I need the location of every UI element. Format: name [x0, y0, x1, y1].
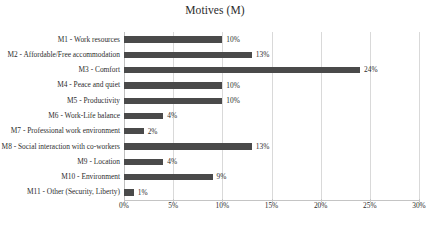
bar-series: 10%13%24%10%10%4%2%13%4%9%1% [124, 32, 419, 200]
bar [124, 143, 252, 149]
bar [124, 128, 144, 134]
bar [124, 36, 222, 42]
bar-row: 10% [124, 93, 419, 108]
bar-value-label: 13% [256, 51, 270, 58]
bar-value-label: 4% [167, 112, 177, 119]
bar-value-label: 10% [226, 82, 240, 89]
bar-value-label: 4% [167, 158, 177, 165]
bar-value-label: 13% [256, 143, 270, 150]
bar-value-label: 10% [226, 36, 240, 43]
bar-chart: Motives (M) M1 - Work resourcesM2 - Affo… [0, 0, 430, 227]
bar-value-label: 10% [226, 97, 240, 104]
bar [124, 67, 360, 73]
bar-row: 4% [124, 108, 419, 123]
bar-value-label: 2% [148, 128, 158, 135]
bar [124, 113, 163, 119]
bar-value-label: 24% [364, 66, 378, 73]
bar [124, 159, 163, 165]
x-axis-tick-label: 30% [412, 202, 426, 209]
bar [124, 98, 222, 104]
category-label: M5 - Productivity [0, 97, 120, 104]
bar-row: 24% [124, 63, 419, 78]
category-label: M1 - Work resources [0, 36, 120, 43]
bar-row: 10% [124, 32, 419, 47]
chart-title: Motives (M) [0, 4, 430, 16]
bar-row: 4% [124, 154, 419, 169]
bar [124, 52, 252, 58]
x-axis-tick-label: 5% [168, 202, 178, 209]
x-axis-tick-labels: 0%5%10%15%20%25%30% [124, 202, 419, 216]
bar-row: 1% [124, 185, 419, 200]
bar [124, 82, 222, 88]
category-label: M6 - Work-Life balance [0, 112, 120, 119]
category-label: M8 - Social interaction with co-workers [0, 143, 120, 150]
category-label: M10 - Environment [0, 173, 120, 180]
bar [124, 174, 213, 180]
bar-row: 13% [124, 139, 419, 154]
plot-area: 10%13%24%10%10%4%2%13%4%9%1% [124, 32, 419, 200]
category-label: M9 - Location [0, 158, 120, 165]
bar-value-label: 1% [138, 189, 148, 196]
bar-row: 9% [124, 169, 419, 184]
category-label: M4 - Peace and quiet [0, 82, 120, 89]
category-label: M7 - Professional work environment [0, 128, 120, 135]
bar-row: 13% [124, 47, 419, 62]
bar-row: 10% [124, 78, 419, 93]
x-axis-tick-label: 10% [216, 202, 230, 209]
x-axis-tick-label: 20% [314, 202, 328, 209]
gridline [419, 32, 420, 200]
category-label: M2 - Affordable/Free accommodation [0, 51, 120, 58]
x-axis-tick-label: 15% [265, 202, 279, 209]
category-label: M3 - Comfort [0, 66, 120, 73]
bar-value-label: 9% [217, 173, 227, 180]
category-label: M11 - Other (Security, Liberty) [0, 189, 120, 196]
bar [124, 189, 134, 195]
category-axis-labels: M1 - Work resourcesM2 - Affordable/Free … [0, 32, 120, 200]
x-axis-tick-label: 0% [119, 202, 129, 209]
x-axis-tick-label: 25% [363, 202, 377, 209]
bar-row: 2% [124, 124, 419, 139]
